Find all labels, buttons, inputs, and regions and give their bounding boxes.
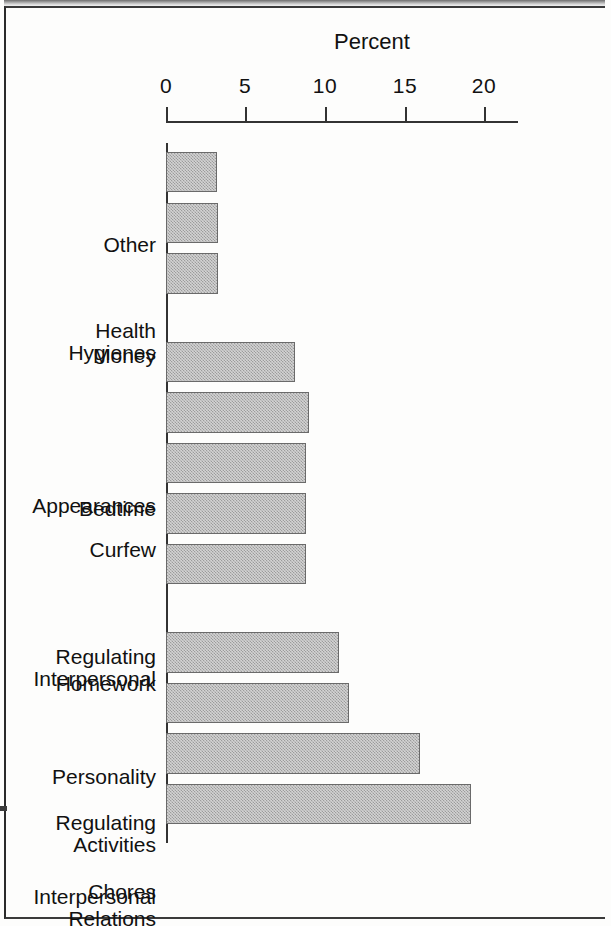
- axis-tick-mark: [484, 107, 486, 121]
- category-label-line-1: Regulating: [55, 644, 155, 667]
- category-label-line-1: Bedtime: [78, 497, 155, 520]
- axis-tick-label: 10: [310, 74, 340, 98]
- bar: [166, 632, 339, 672]
- category-label: Homework: [55, 673, 155, 695]
- value-axis-line: [166, 121, 518, 123]
- page-edge-marker: [0, 806, 7, 811]
- category-label: RegulatingActivities: [55, 812, 155, 856]
- category-label: Chores: [88, 881, 156, 903]
- category-axis-labels: OtherHealthHygienesMoneyAppearancesBedti…: [26, 143, 166, 843]
- bar: [166, 733, 421, 773]
- axis-tick-label: 5: [230, 74, 260, 98]
- bar: [166, 683, 349, 723]
- category-label-line-1: Chores: [88, 880, 156, 903]
- axis-tick-mark: [245, 107, 247, 121]
- value-axis-title: Percent: [196, 29, 548, 59]
- plot-area: [166, 143, 516, 843]
- category-label-line-1: Health: [95, 318, 156, 341]
- axis-tick-label: 0: [151, 74, 181, 98]
- bar: [166, 152, 217, 192]
- category-label-line-1: Homework: [55, 672, 155, 695]
- bar: [166, 443, 306, 483]
- axis-tick-mark: [166, 107, 168, 121]
- category-label-line-1: Curfew: [89, 537, 156, 560]
- category-label-line-1: Regulating: [55, 811, 155, 834]
- bar: [166, 253, 219, 293]
- category-label: Other: [103, 234, 156, 256]
- bar: [166, 203, 219, 243]
- category-label-line-1: Other: [103, 233, 156, 256]
- category-label: Money: [92, 345, 155, 367]
- axis-tick-mark: [404, 107, 406, 121]
- category-label: Curfew: [89, 538, 156, 560]
- axis-tick-mark: [325, 107, 327, 121]
- bar: [166, 392, 309, 432]
- chart-inner: 05101520 Percent OtherHealthHygienesMone…: [26, 23, 586, 903]
- category-label-line-1: Personality: [52, 764, 156, 787]
- axis-tick-label: 20: [469, 74, 499, 98]
- category-label-line-2: Activities: [55, 834, 155, 856]
- bar: [166, 544, 306, 584]
- axis-tick-label: 15: [389, 74, 419, 98]
- bar: [166, 342, 295, 382]
- rotated-chart-container: 05101520 Percent OtherHealthHygienesMone…: [26, 23, 586, 903]
- category-label: Bedtime: [78, 498, 155, 520]
- bar: [166, 493, 306, 533]
- bar: [166, 784, 472, 824]
- category-label-line-1: Money: [92, 344, 155, 367]
- category-label: Personality: [52, 765, 156, 787]
- scanned-figure-page: 05101520 Percent OtherHealthHygienesMone…: [0, 0, 611, 926]
- category-label-line-2: Relations: [33, 907, 156, 926]
